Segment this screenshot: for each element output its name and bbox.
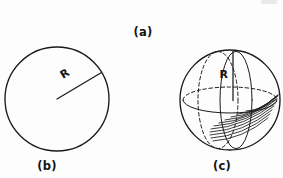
circle-radius-label: R [58,66,73,82]
sphere-equator-back-dashed [183,87,277,100]
panel-a: (a) [134,25,153,39]
panel-b-caption: (b) [37,159,56,173]
panel-c: R (c) [180,50,280,173]
panel-c-caption: (c) [213,159,231,173]
panel-a-caption: (a) [134,25,153,39]
sphere-meridian-solid [220,51,252,148]
sphere-radius-label: R [220,68,229,81]
figure-drawing: (a) R (b) [0,0,283,178]
figure-container: (a) R (b) [0,0,283,178]
panel-b: R (b) [5,47,109,173]
